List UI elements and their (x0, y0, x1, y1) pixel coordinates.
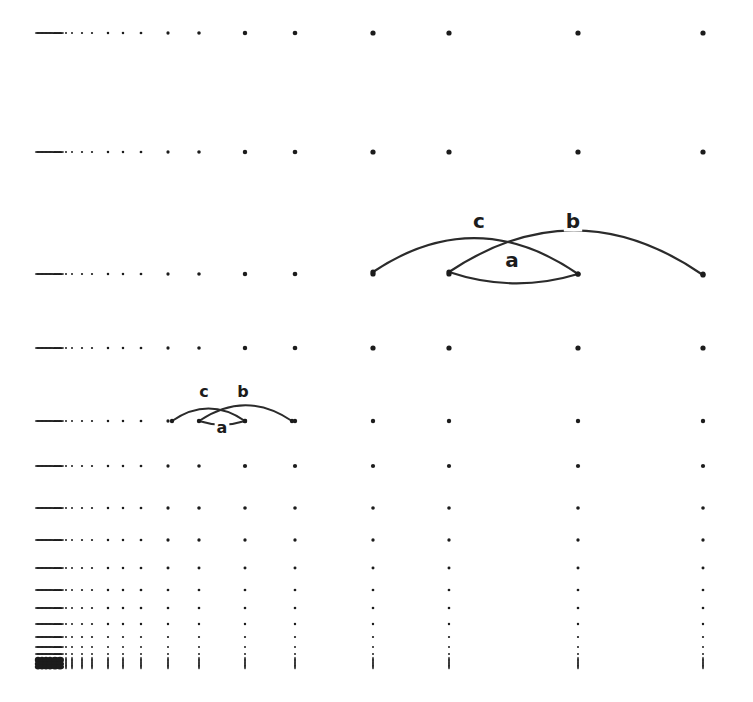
grid-dot (701, 506, 705, 510)
grid-dot (65, 32, 67, 34)
grid-dot (122, 653, 124, 655)
grid-dot (140, 507, 143, 510)
grid-dot (243, 346, 247, 350)
grid-dot (71, 636, 73, 638)
grid-dot (702, 636, 704, 638)
grid-dot (577, 589, 580, 592)
grid-dot (140, 607, 143, 610)
grid-dot (122, 465, 125, 468)
grid-dot (107, 646, 109, 648)
grid-dot (81, 507, 83, 509)
grid-dot (166, 346, 169, 349)
grid-dot (447, 506, 451, 510)
grid-dot (71, 273, 73, 275)
grid-dot (122, 623, 124, 625)
grid-dot (122, 273, 125, 276)
node-point (170, 419, 174, 423)
grid-dot (197, 506, 201, 510)
grid-dot (166, 464, 169, 467)
grid-dot (56, 465, 64, 467)
grid-dot (122, 636, 124, 638)
grid-dot (701, 538, 704, 541)
grid-dot (198, 567, 201, 570)
arc-label-a: a (217, 418, 228, 437)
grid-dot (91, 567, 93, 569)
grid-dot (81, 151, 83, 153)
arc-label-b: b (237, 382, 248, 401)
grid-dot (71, 567, 73, 569)
grid-dot (122, 589, 125, 592)
grid-dot (81, 589, 83, 591)
grid-dot (294, 653, 296, 655)
grid-dot (71, 420, 73, 422)
grid-dot (107, 589, 110, 592)
grid-dot (243, 31, 247, 35)
grid-dot (167, 589, 170, 592)
grid-dot (371, 419, 375, 423)
grid-dot (372, 567, 375, 570)
grid-dot (56, 653, 64, 655)
grid-dot (370, 149, 375, 154)
grid-dot (122, 665, 124, 670)
grid-dot (166, 538, 169, 541)
grid-dot (81, 539, 83, 541)
grid-dot (91, 636, 93, 638)
grid-dot (56, 507, 64, 509)
grid-dot (107, 151, 110, 154)
grid-dot (140, 646, 142, 648)
grid-dot (56, 273, 64, 275)
figure-canvas: abcabc (0, 0, 753, 702)
grid-dot (65, 646, 67, 648)
grid-dot (198, 646, 200, 648)
grid-dot (107, 653, 109, 655)
grid-dot (448, 567, 451, 570)
grid-dot (576, 419, 580, 423)
grid-dot (81, 665, 83, 670)
grid-dot (576, 506, 580, 510)
grid-dot (140, 151, 143, 154)
grid-dot (65, 465, 67, 467)
grid-dot (81, 347, 83, 349)
grid-dot (576, 538, 579, 541)
grid-dot (447, 419, 451, 423)
grid-dot (293, 272, 298, 277)
grid-dot (577, 665, 579, 670)
grid-dot (244, 636, 246, 638)
grid-dot (65, 539, 67, 541)
grid-dot (140, 539, 143, 542)
node-point (575, 271, 580, 276)
grid-dot (140, 665, 142, 670)
grid-dot (448, 665, 450, 670)
grid-dot (140, 32, 143, 35)
grid-dot (122, 347, 125, 350)
grid-dot (372, 665, 374, 670)
grid-dot (243, 150, 247, 154)
grid-dot (81, 623, 83, 625)
grid-dot (56, 589, 64, 591)
grid-dot (122, 539, 125, 542)
grid-dot (372, 653, 374, 655)
grid-dot (65, 636, 67, 638)
grid-dot (446, 30, 451, 35)
grid-dot (448, 623, 450, 625)
grid-dot (65, 653, 67, 655)
grid-dot (65, 507, 67, 509)
grid-dot (107, 420, 110, 423)
grid-dot (65, 151, 67, 153)
grid-dot (293, 538, 296, 541)
grid-dot (577, 653, 579, 655)
grid-dot (197, 150, 201, 154)
grid-dot (372, 589, 375, 592)
grid-dot (293, 464, 297, 468)
grid-dot (71, 623, 73, 625)
arc-label-c: c (473, 209, 485, 233)
grid-dot (244, 567, 247, 570)
grid-dot (372, 607, 375, 610)
grid-dot (167, 665, 169, 670)
grid-dot (81, 273, 83, 275)
grid-dot (56, 646, 64, 648)
grid-dot (166, 506, 169, 509)
grid-dot (294, 646, 296, 648)
grid-dot (702, 607, 705, 610)
grid-dot (56, 567, 64, 569)
